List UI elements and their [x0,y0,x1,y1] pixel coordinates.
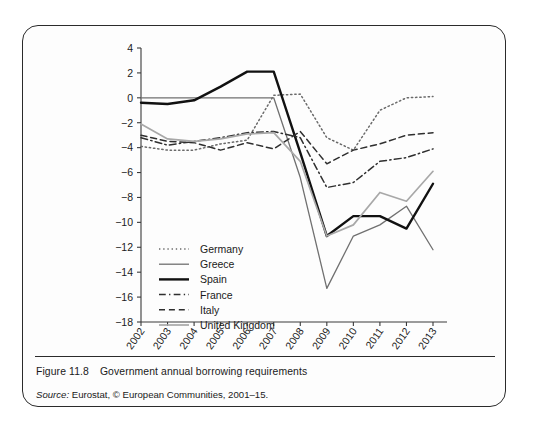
source-label: Source: [36,389,69,400]
line-chart: 420−2−4−6−8−10−12−14−16−1820022003200420… [23,26,507,364]
y-axis-tick-label: −2 [121,117,133,129]
x-axis-tick-label: 2011 [363,325,386,351]
x-axis-tick-label: 2003 [150,325,173,351]
source-text: Eurostat, © European Communities, 2001–1… [69,389,268,400]
x-axis-tick-label: 2009 [309,325,332,351]
y-axis-tick-label: 4 [127,42,133,54]
y-axis-tick-label: 2 [127,67,133,79]
legend-item-france: France [159,289,233,301]
y-axis-tick-label: −10 [115,216,133,228]
series-line-greece [141,98,433,289]
y-axis-tick-label: −8 [121,191,133,203]
x-axis-tick-label: 2013 [415,325,438,351]
x-axis-tick-label: 2012 [389,325,412,351]
legend-item-germany: Germany [159,243,244,255]
legend-label-united-kingdom: United Kingdom [200,319,275,331]
legend-item-greece: Greece [159,258,235,270]
y-axis-tick-label: 0 [127,92,133,104]
legend-item-united-kingdom: United Kingdom [159,319,275,331]
y-axis-tick-label: −18 [115,316,133,328]
figure-panel: 420−2−4−6−8−10−12−14−16−1820022003200420… [22,25,506,407]
x-axis-tick-label: 2008 [283,325,306,351]
figure-number: Figure 11.8 [36,366,89,377]
x-axis-tick-label: 2004 [177,325,200,351]
legend-label-spain: Spain [200,273,227,285]
figure-title: Government annual borrowing requirements [100,366,307,377]
y-axis-tick-label: −12 [115,241,133,253]
legend-label-germany: Germany [200,243,244,255]
legend-item-italy: Italy [159,304,220,316]
legend-label-italy: Italy [200,304,220,316]
y-axis-tick-label: −6 [121,166,133,178]
legend-label-france: France [200,289,233,301]
y-axis-tick-label: −14 [115,266,133,278]
figure-source: Source: Eurostat, © European Communities… [36,389,496,400]
caption-divider [35,356,495,357]
chart-plot-region: 420−2−4−6−8−10−12−14−16−1820022003200420… [23,26,507,364]
y-axis-tick-label: −4 [121,141,133,153]
y-axis-tick-label: −16 [115,291,133,303]
figure-caption: Figure 11.8Government annual borrowing r… [36,366,496,377]
x-axis-tick-label: 2010 [336,325,359,351]
legend-item-spain: Spain [159,273,227,285]
series-line-spain [141,72,433,236]
x-axis-tick-label: 2002 [123,325,146,351]
legend-label-greece: Greece [200,258,235,270]
